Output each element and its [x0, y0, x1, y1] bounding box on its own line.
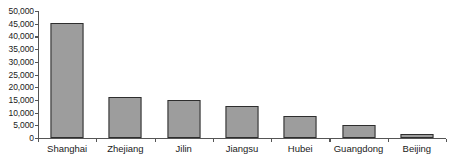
x-axis-line	[38, 138, 446, 139]
plot-area	[38, 11, 446, 138]
bar-chart: 05,00010,00015,00020,00025,00030,00035,0…	[0, 0, 449, 165]
y-axis-tick-label: 10,000	[9, 108, 34, 118]
x-axis-tick-mark	[155, 139, 156, 142]
x-axis-tick-mark	[388, 139, 389, 142]
bar-slot	[271, 11, 329, 138]
x-axis-tick-mark	[329, 139, 330, 142]
bar[interactable]	[284, 116, 317, 138]
bar-slot	[155, 11, 213, 138]
bar-slot	[38, 11, 96, 138]
bar-slot	[96, 11, 154, 138]
y-axis-tick-label: 20,000	[9, 82, 34, 92]
x-axis-category-label: Beijing	[403, 143, 432, 154]
x-axis-tick-mark	[213, 139, 214, 142]
y-axis-tick-label: 15,000	[9, 95, 34, 105]
bar[interactable]	[109, 97, 142, 138]
bar-slot	[213, 11, 271, 138]
x-axis-category-label: Jilin	[176, 143, 192, 154]
x-axis-tick-mark	[271, 139, 272, 142]
bar[interactable]	[400, 134, 433, 138]
y-axis-tick-labels: 05,00010,00015,00020,00025,00030,00035,0…	[0, 5, 34, 145]
y-axis-tick-label: 45,000	[9, 19, 34, 29]
x-axis-category-label: Jiangsu	[226, 143, 259, 154]
y-axis-tick-label: 5,000	[13, 120, 34, 130]
y-axis-tick-label: 40,000	[9, 31, 34, 41]
x-axis-category-label: Guangdong	[334, 143, 384, 154]
bar-slot	[388, 11, 446, 138]
y-axis-tick-label: 30,000	[9, 57, 34, 67]
x-axis-category-label: Zhejiang	[107, 143, 143, 154]
x-axis-tick-mark	[446, 139, 447, 142]
y-axis-tick-label: 50,000	[9, 6, 34, 16]
bar[interactable]	[225, 106, 258, 138]
y-axis-tick-label: 35,000	[9, 44, 34, 54]
y-axis-tick-label: 25,000	[9, 70, 34, 80]
bar-slot	[329, 11, 387, 138]
bar[interactable]	[342, 125, 375, 138]
x-axis-category-label: Hubei	[288, 143, 313, 154]
bar[interactable]	[167, 100, 200, 138]
bar[interactable]	[51, 23, 84, 138]
x-axis-category-label: Shanghai	[47, 143, 87, 154]
y-axis-tick-label: 0	[29, 133, 34, 143]
x-axis-tick-mark	[96, 139, 97, 142]
x-axis-tick-mark	[38, 139, 39, 142]
x-axis-category-labels: ShanghaiZhejiangJilinJiangsuHubeiGuangdo…	[38, 143, 446, 163]
